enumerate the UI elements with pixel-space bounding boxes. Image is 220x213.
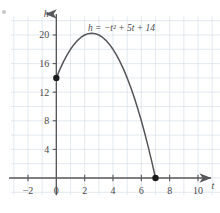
axes [9, 14, 211, 195]
y-tick-label: 12 [39, 87, 49, 98]
x-axis-label: t [212, 180, 215, 191]
grid-lines [11, 16, 220, 195]
x-tick-label: 8 [167, 185, 172, 196]
y-tick-label: 20 [39, 29, 49, 40]
x-tick-label: 2 [82, 185, 87, 196]
data-point-y-intercept [53, 75, 59, 81]
data-point-positive-root [152, 175, 158, 181]
x-tick-label: 0 [54, 185, 59, 196]
y-tick-label: 4 [44, 144, 49, 155]
x-tick-label: 10 [193, 185, 203, 196]
figure-root: −2024681048121620 h t h = −t² + 5t + 14 [0, 0, 220, 213]
x-tick-label: −2 [23, 185, 34, 196]
parabola-plot: −2024681048121620 h t h = −t² + 5t + 14 [0, 0, 220, 213]
y-axis-label: h [44, 8, 49, 19]
curve-equation-label: h = −t² + 5t + 14 [88, 23, 155, 33]
y-tick-label: 16 [39, 58, 49, 69]
x-tick-label: 4 [110, 185, 115, 196]
parabola-curve [56, 33, 155, 178]
y-tick-label: 8 [44, 115, 49, 126]
x-tick-label: 6 [139, 185, 144, 196]
